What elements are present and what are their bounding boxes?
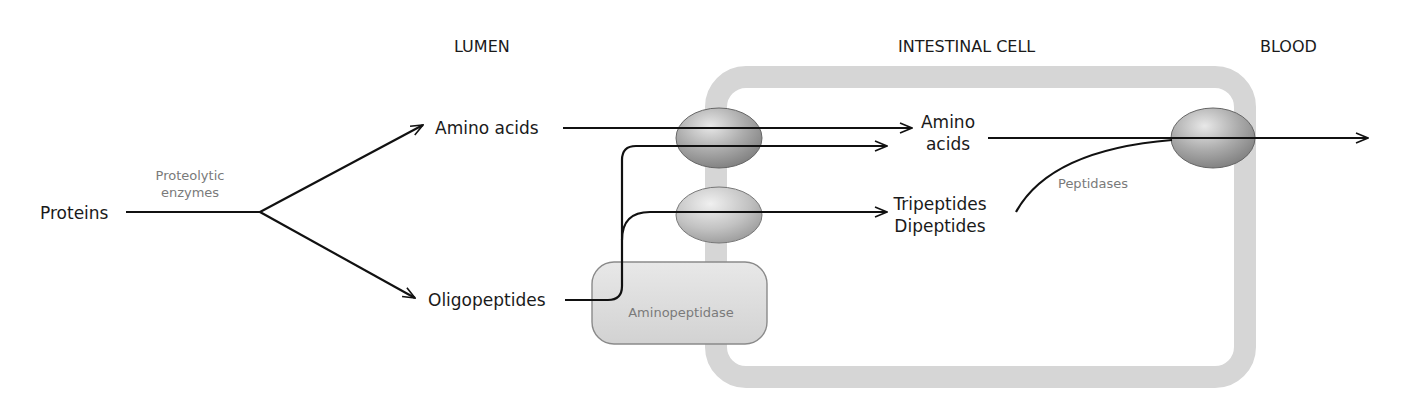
transporter-amino-acid-apical bbox=[676, 108, 762, 168]
transporter-peptide-apical bbox=[676, 187, 762, 243]
node-amino-acids-lumen: Amino acids bbox=[435, 118, 539, 138]
arrow-to-oligopeptides bbox=[260, 212, 415, 298]
node-proteins: Proteins bbox=[40, 203, 109, 223]
node-dipeptides: Dipeptides bbox=[894, 216, 985, 236]
aminopeptidase-label: Aminopeptidase bbox=[628, 305, 734, 320]
node-amino-acids-cell-line1: Amino bbox=[921, 112, 975, 132]
aminopeptidase-enzyme bbox=[592, 262, 767, 344]
enzyme-peptidases-label: Peptidases bbox=[1058, 176, 1128, 191]
node-oligopeptides: Oligopeptides bbox=[428, 290, 546, 310]
region-intestinal-cell-label: INTESTINAL CELL bbox=[898, 37, 1035, 56]
region-lumen-label: LUMEN bbox=[454, 37, 510, 56]
enzyme-proteolytic-line2: enzymes bbox=[161, 185, 219, 200]
arrow-to-amino-acids bbox=[260, 125, 423, 212]
enzyme-proteolytic-line1: Proteolytic bbox=[156, 168, 225, 183]
region-blood-label: BLOOD bbox=[1260, 37, 1317, 56]
protein-digestion-diagram: LUMEN INTESTINAL CELL BLOOD Proteins Pro… bbox=[0, 0, 1411, 411]
node-amino-acids-cell-line2: acids bbox=[926, 134, 970, 154]
node-tripeptides: Tripeptides bbox=[892, 194, 986, 214]
